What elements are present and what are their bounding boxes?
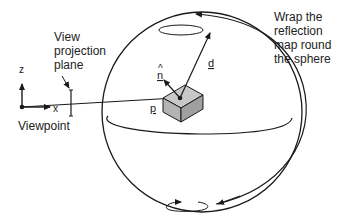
point-label: p	[150, 102, 156, 114]
z-axis-label: z	[19, 64, 24, 75]
wrap-note-line1: Wrap the	[274, 10, 323, 24]
wrap-note-line4: the sphere	[274, 52, 331, 66]
wrap-note-line3: map round	[274, 38, 331, 52]
plane-pointer-arrow	[62, 76, 69, 88]
reflection-direction-arrow	[180, 33, 210, 98]
view-projection-plane-label-line3: plane	[54, 58, 84, 72]
wrap-note-line2: reflection	[274, 24, 323, 38]
view-projection-plane-label-line1: View	[54, 30, 80, 44]
view-projection-plane-label-line2: projection	[54, 44, 106, 58]
reflection-mapping-diagram: View projection plane z x Viewpoint ^ n …	[0, 0, 352, 218]
equator-ellipse	[107, 116, 292, 134]
sphere	[102, 12, 302, 212]
normal-label: n	[157, 69, 163, 81]
viewpoint-label: Viewpoint	[18, 119, 70, 133]
top-pole-ellipse	[159, 25, 203, 35]
x-axis-label: x	[53, 103, 58, 114]
bottom-pole-ellipse	[166, 202, 207, 211]
direction-label: d	[208, 57, 214, 69]
wrap-arc-bottom-arrow	[218, 196, 240, 204]
